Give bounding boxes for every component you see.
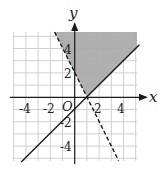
x-tick-label: -2 — [43, 102, 55, 116]
y-axis-label: y — [68, 4, 78, 22]
x-tick-label: 4 — [117, 102, 125, 116]
origin-label: O — [62, 99, 73, 114]
graph: y x O -4 -2 2 4 4 2 -2 -4 — [0, 0, 162, 171]
y-axis-arrow-icon — [71, 22, 78, 31]
y-tick-label: 2 — [64, 67, 72, 81]
y-tick-label: 4 — [64, 43, 72, 57]
x-axis-label: x — [149, 88, 158, 106]
x-tick-label: -4 — [19, 102, 31, 116]
y-tick-label: -4 — [60, 140, 72, 154]
x-axis-arrow-icon — [139, 94, 148, 101]
x-tick-label: 2 — [94, 102, 102, 116]
y-tick-label: -2 — [60, 116, 72, 130]
